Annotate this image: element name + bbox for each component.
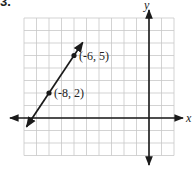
point-a [71, 53, 76, 58]
point-b-label: (-8, 2) [54, 86, 84, 100]
y-axis-label: y [143, 0, 150, 12]
grid [24, 18, 174, 156]
x-axis-label: x [185, 111, 192, 125]
point-b [46, 90, 51, 95]
coordinate-plane: x y (-6, 5) (-8, 2) [0, 0, 194, 170]
point-a-label: (-6, 5) [79, 49, 109, 63]
